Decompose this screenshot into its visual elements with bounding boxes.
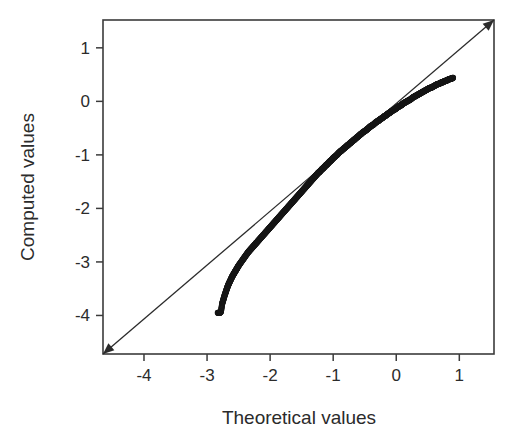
qq-plot-figure: -4-3-2-101 10-1-2-3-4 Theoretical values…: [0, 0, 519, 441]
y-axis-title: Computed values: [17, 113, 38, 261]
x-axis-tick-labels: -4-3-2-101: [136, 366, 464, 385]
reference-line: [103, 20, 494, 354]
identity-line: [103, 20, 494, 354]
y-tick-label: 1: [81, 39, 90, 58]
y-tick-label: -1: [75, 146, 90, 165]
x-tick-label: -2: [263, 366, 278, 385]
x-axis-title: Theoretical values: [222, 407, 376, 428]
data-points-scatter: [215, 75, 455, 315]
y-tick-label: -3: [75, 253, 90, 272]
y-axis-tick-labels: 10-1-2-3-4: [75, 39, 90, 326]
y-tick-label: 0: [81, 92, 90, 111]
x-tick-label: -3: [199, 366, 214, 385]
x-tick-label: 1: [455, 366, 464, 385]
x-tick-label: -4: [136, 366, 151, 385]
x-tick-label: 0: [392, 366, 401, 385]
y-tick-label: -2: [75, 199, 90, 218]
y-axis-ticks: [96, 48, 103, 316]
x-tick-label: -1: [326, 366, 341, 385]
plot-canvas: -4-3-2-101 10-1-2-3-4 Theoretical values…: [0, 0, 519, 441]
y-tick-label: -4: [75, 306, 90, 325]
x-axis-ticks: [144, 354, 459, 361]
